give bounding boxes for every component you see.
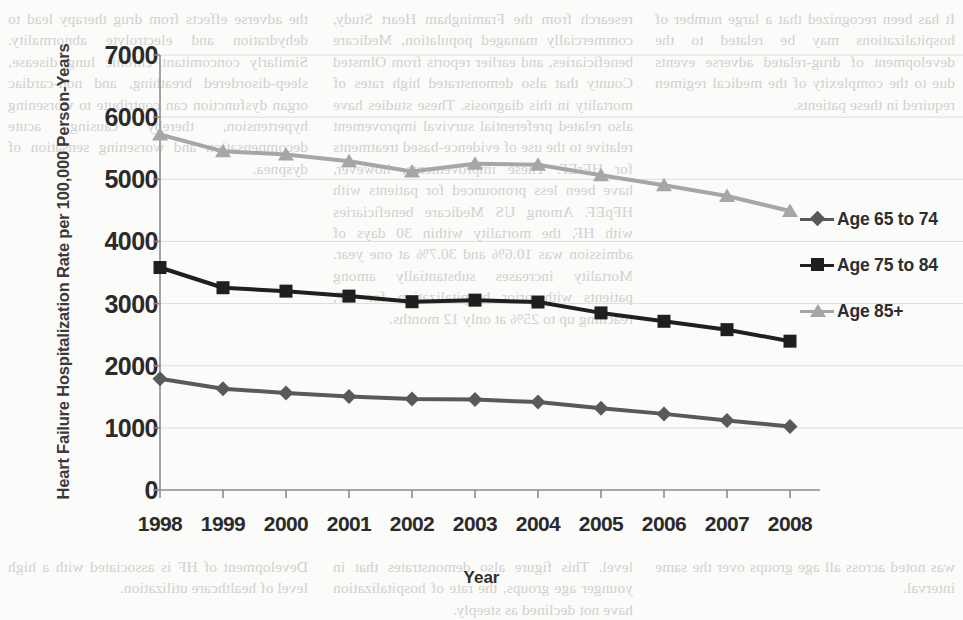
datapoint-2004 bbox=[531, 395, 546, 410]
datapoint-2006 bbox=[657, 406, 672, 421]
datapoint-1999 bbox=[216, 381, 231, 396]
series-age-85- bbox=[152, 127, 798, 217]
datapoint-1998 bbox=[153, 371, 168, 386]
series-line bbox=[160, 135, 790, 211]
series-age-75-to-84 bbox=[154, 261, 797, 348]
legend-key-triangle-icon bbox=[800, 304, 834, 318]
legend-key-square-icon bbox=[800, 258, 834, 272]
legend-item-age-75-to-84[interactable]: Age 75 to 84 bbox=[800, 242, 963, 288]
datapoint-2000 bbox=[280, 285, 293, 298]
datapoint-1999 bbox=[217, 281, 230, 294]
datapoint-2003 bbox=[469, 294, 482, 307]
legend-label: Age 65 to 74 bbox=[837, 209, 938, 230]
datapoint-2008 bbox=[783, 419, 798, 434]
chart-legend: Age 65 to 74Age 75 to 84Age 85+ bbox=[800, 196, 963, 334]
datapoint-2001 bbox=[342, 389, 357, 404]
datapoint-2004 bbox=[532, 296, 545, 309]
datapoint-2005 bbox=[595, 306, 608, 319]
datapoint-2001 bbox=[343, 290, 356, 303]
legend-label: Age 75 to 84 bbox=[837, 255, 938, 276]
datapoint-2003 bbox=[468, 392, 483, 407]
legend-item-age-85-[interactable]: Age 85+ bbox=[800, 288, 963, 334]
datapoint-1998 bbox=[154, 261, 167, 274]
datapoint-2007 bbox=[720, 413, 735, 428]
datapoint-2002 bbox=[405, 391, 420, 406]
legend-label: Age 85+ bbox=[837, 301, 903, 322]
legend-item-age-65-to-74[interactable]: Age 65 to 74 bbox=[800, 196, 963, 242]
datapoint-2008 bbox=[784, 335, 797, 348]
legend-key-diamond-icon bbox=[800, 212, 834, 226]
datapoint-1998 bbox=[152, 127, 168, 141]
datapoint-2006 bbox=[658, 315, 671, 328]
datapoint-2002 bbox=[406, 295, 419, 308]
datapoint-2005 bbox=[594, 401, 609, 416]
series-age-65-to-74 bbox=[153, 371, 798, 434]
datapoint-2000 bbox=[279, 386, 294, 401]
datapoint-2007 bbox=[721, 323, 734, 336]
